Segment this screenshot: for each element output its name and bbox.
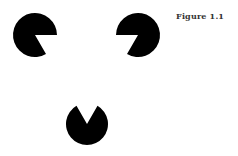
kanizsa-figure	[0, 0, 238, 156]
pacman-bottom	[66, 106, 108, 145]
pacman-top-left	[13, 13, 57, 57]
pacman-top-right	[116, 13, 160, 57]
figure-caption: Figure 1.1	[176, 11, 224, 21]
